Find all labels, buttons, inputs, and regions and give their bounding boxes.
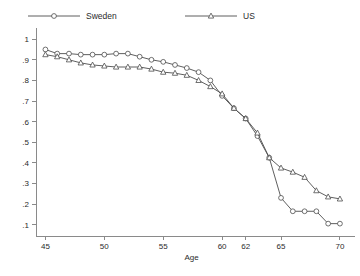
data-point-us	[208, 84, 213, 89]
data-point-sweden	[208, 78, 213, 83]
y-tick-label: .6	[22, 118, 29, 127]
y-tick-label: .5	[22, 138, 29, 147]
data-point-sweden	[149, 57, 154, 62]
y-tick-label: .9	[22, 56, 29, 65]
data-point-sweden	[137, 54, 142, 59]
y-tick-label: .8	[22, 76, 29, 85]
series-us	[43, 52, 343, 201]
chart-container: Sweden US .1.2.3.4.5.6.7.8.91 4550556062…	[0, 0, 360, 276]
data-point-sweden	[184, 66, 189, 71]
y-tick-label: .2	[22, 200, 29, 209]
data-point-sweden	[302, 209, 307, 214]
data-point-us	[43, 52, 48, 57]
legend-point-circle	[52, 14, 57, 19]
y-tick-label: .4	[22, 159, 29, 168]
x-tick-label: 45	[41, 242, 50, 251]
x-tick-label: 60	[218, 242, 227, 251]
data-point-sweden	[290, 209, 295, 214]
data-point-sweden	[338, 221, 343, 226]
data-point-sweden	[196, 70, 201, 75]
y-tick-label: .3	[22, 179, 29, 188]
line-chart: Sweden US .1.2.3.4.5.6.7.8.91 4550556062…	[0, 0, 360, 276]
data-point-sweden	[161, 59, 166, 64]
data-point-sweden	[78, 52, 83, 57]
data-point-sweden	[67, 51, 72, 56]
data-point-sweden	[314, 209, 319, 214]
legend-label-us: US	[243, 11, 255, 21]
y-tick-label: 1	[25, 35, 30, 44]
data-point-sweden	[90, 52, 95, 57]
series-line-us	[45, 55, 340, 199]
x-tick-label: 65	[277, 242, 286, 251]
data-point-sweden	[279, 195, 284, 200]
x-tick-label: 55	[159, 242, 168, 251]
x-tick-label: 70	[335, 242, 344, 251]
series-layer	[43, 47, 343, 226]
x-axis: 45505560626570	[41, 236, 345, 251]
legend: Sweden US	[28, 11, 255, 21]
series-line-sweden	[45, 49, 340, 223]
legend-marker-sweden	[52, 14, 57, 19]
series-sweden	[43, 47, 342, 226]
y-tick-label: .1	[22, 221, 29, 230]
data-point-sweden	[125, 51, 130, 56]
legend-label-sweden: Sweden	[86, 11, 117, 21]
x-tick-label: 50	[100, 242, 109, 251]
x-axis-title: Age	[184, 253, 199, 262]
data-point-us	[325, 194, 330, 199]
data-point-sweden	[173, 63, 178, 68]
y-tick-label: .7	[22, 97, 29, 106]
y-axis: .1.2.3.4.5.6.7.8.91	[22, 35, 36, 229]
x-tick-label: 62	[241, 242, 250, 251]
data-point-sweden	[326, 221, 331, 226]
data-point-sweden	[114, 51, 119, 56]
data-point-sweden	[102, 52, 107, 57]
